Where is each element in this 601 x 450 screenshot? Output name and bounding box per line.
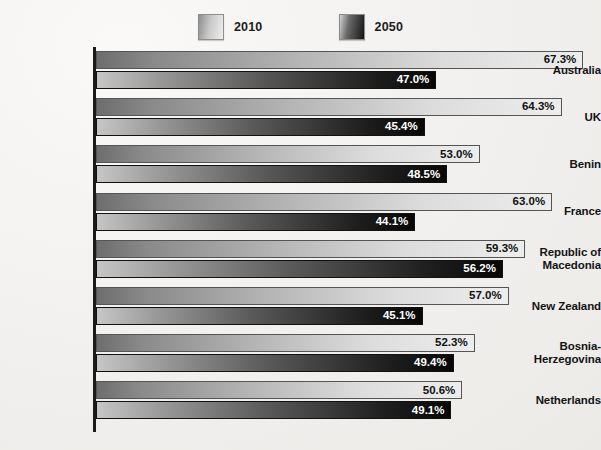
bar-2050[interactable]: 45.4% — [96, 118, 425, 136]
legend-item-2010[interactable]: 2010 — [198, 14, 263, 40]
chart-title-cropped — [0, 0, 601, 5]
bar-2010[interactable]: 59.3% — [96, 240, 525, 258]
bar-2050[interactable]: 49.1% — [96, 401, 451, 419]
bar-chart: 2010 2050 67.3%47.0%64.3%45.4%53.0%48.5%… — [0, 0, 601, 450]
legend-label-2050: 2050 — [375, 20, 404, 34]
bar-2050[interactable]: 44.1% — [96, 213, 415, 231]
bar-2050[interactable]: 49.4% — [96, 354, 454, 372]
legend-item-2050[interactable]: 2050 — [339, 14, 404, 40]
bar-value-label: 44.1% — [376, 216, 415, 228]
category-label: France — [513, 205, 601, 218]
bar-2050[interactable]: 56.2% — [96, 260, 503, 278]
category-label: Netherlands — [513, 394, 601, 407]
bar-value-label: 47.0% — [397, 74, 436, 86]
bar-2010[interactable]: 52.3% — [96, 334, 475, 352]
bar-2010[interactable]: 53.0% — [96, 145, 480, 163]
chart-legend: 2010 2050 — [0, 14, 601, 40]
bar-value-label: 49.4% — [414, 357, 453, 369]
bar-2010[interactable]: 64.3% — [96, 98, 562, 116]
category-label: Australia — [513, 64, 601, 77]
bar-value-label: 48.5% — [408, 169, 447, 181]
bar-value-label: 50.6% — [423, 385, 462, 397]
plot-area: 67.3%47.0%64.3%45.4%53.0%48.5%63.0%44.1%… — [93, 47, 601, 434]
category-label: New Zealand — [513, 300, 601, 313]
bar-value-label: 45.1% — [383, 310, 422, 322]
category-label: Bosnia-Herzegovina — [513, 340, 601, 366]
bar-value-label: 52.3% — [435, 337, 474, 349]
bar-value-label: 53.0% — [440, 149, 479, 161]
bar-2050[interactable]: 47.0% — [96, 71, 436, 89]
bar-value-label: 45.4% — [385, 121, 424, 133]
category-label: Benin — [513, 158, 601, 171]
bar-value-label: 49.1% — [412, 405, 451, 417]
category-label: UK — [513, 111, 601, 124]
bar-value-label: 57.0% — [469, 290, 508, 302]
legend-swatch-2010-icon — [198, 14, 224, 40]
legend-swatch-2050-icon — [339, 14, 365, 40]
category-label: Republic ofMacedonia — [513, 246, 601, 272]
legend-label-2010: 2010 — [234, 20, 263, 34]
bar-2010[interactable]: 50.6% — [96, 381, 462, 399]
bar-2010[interactable]: 57.0% — [96, 287, 509, 305]
bar-2010[interactable]: 67.3% — [96, 51, 583, 69]
bar-value-label: 56.2% — [463, 263, 502, 275]
bar-2050[interactable]: 48.5% — [96, 165, 447, 183]
bar-2010[interactable]: 63.0% — [96, 193, 552, 211]
bar-2050[interactable]: 45.1% — [96, 307, 423, 325]
